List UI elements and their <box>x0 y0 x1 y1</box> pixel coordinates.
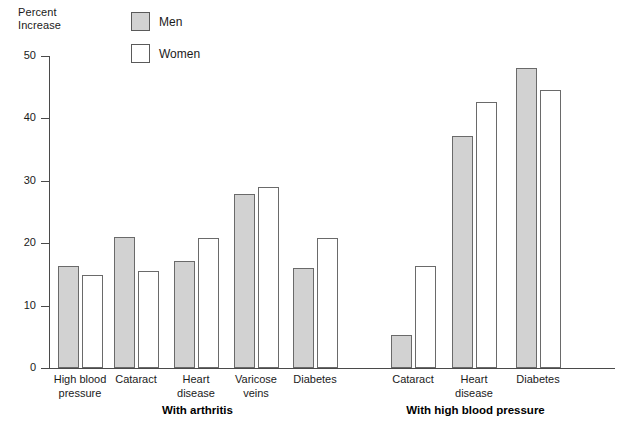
bar-men-1 <box>114 237 135 368</box>
y-axis-line <box>49 56 50 369</box>
bar-men-4 <box>293 268 314 368</box>
bar-women-1 <box>138 271 159 368</box>
y-tick-label: 20 <box>2 236 36 248</box>
bar-men-2 <box>174 261 195 368</box>
y-tick-label: 50 <box>2 49 36 61</box>
bar-women-3 <box>258 187 279 368</box>
bar-women-6 <box>476 102 497 368</box>
y-tick-label: 0 <box>2 361 36 373</box>
y-tick-mark <box>41 56 50 57</box>
bar-men-5 <box>391 335 412 368</box>
category-label-4: Diabetes <box>270 373 360 387</box>
y-tick-mark <box>41 243 50 244</box>
group-label-0: With arthritis <box>88 404 308 416</box>
y-tick-label: 30 <box>2 174 36 186</box>
bar-women-7 <box>540 90 561 368</box>
bar-men-0 <box>58 266 79 368</box>
bar-men-7 <box>516 68 537 368</box>
bar-women-4 <box>317 238 338 368</box>
bar-women-0 <box>82 275 103 368</box>
bar-women-5 <box>415 266 436 368</box>
bar-chart: Percent Increase Men Women 01020304050 H… <box>0 0 623 429</box>
bar-men-3 <box>234 194 255 368</box>
y-tick-label: 40 <box>2 111 36 123</box>
plot-area: 01020304050 High blood pressureCataractH… <box>0 0 623 429</box>
category-label-7: Diabetes <box>493 373 583 387</box>
y-tick-mark <box>41 118 50 119</box>
bar-women-2 <box>198 238 219 368</box>
x-axis-line <box>49 368 615 369</box>
y-tick-mark <box>41 306 50 307</box>
y-tick-mark <box>41 181 50 182</box>
y-tick-label: 10 <box>2 299 36 311</box>
y-tick-mark <box>41 368 50 369</box>
group-label-1: With high blood pressure <box>366 404 586 416</box>
bar-men-6 <box>452 136 473 368</box>
